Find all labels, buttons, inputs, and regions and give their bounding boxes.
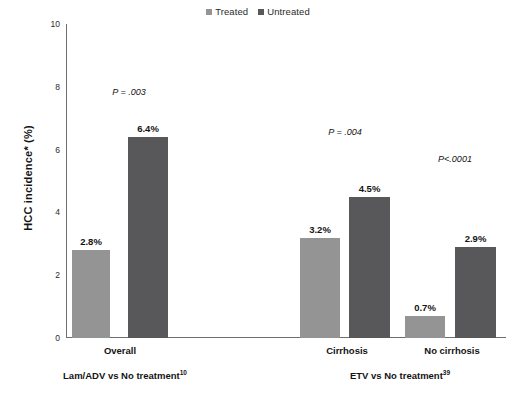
- bar-value-overall-treated: 2.8%: [80, 236, 102, 247]
- y-axis-line: [66, 24, 67, 338]
- pvalue-nocirrhosis: P<.0001: [438, 154, 472, 164]
- chart-legend: Treated Untreated: [0, 6, 516, 17]
- bar-value-nocirrhosis-untreated: 2.9%: [465, 233, 487, 244]
- legend-label-untreated: Untreated: [267, 6, 310, 17]
- panel-label-etv-superscript: 39: [443, 369, 450, 376]
- panel-label-lam-adv: Lam/ADV vs No treatment10: [63, 369, 187, 381]
- panel-label-etv-text: ETV vs No treatment: [350, 370, 443, 381]
- bar-overall-treated: 2.8%: [72, 250, 110, 338]
- pvalue-overall: P = .003: [112, 87, 145, 97]
- legend-entry-untreated: Untreated: [258, 6, 310, 17]
- panel-label-lam-adv-superscript: 10: [180, 369, 187, 376]
- legend-swatch-treated-icon: [206, 9, 212, 15]
- bar-cirrhosis-treated: 3.2%: [300, 238, 340, 339]
- legend-swatch-untreated-icon: [258, 9, 264, 15]
- pvalue-cirrhosis: P = .004: [328, 127, 361, 137]
- legend-entry-treated: Treated: [206, 6, 248, 17]
- bar-cirrhosis-untreated: 4.5%: [349, 197, 390, 338]
- category-label-cirrhosis: Cirrhosis: [326, 345, 368, 356]
- y-tick-0: 0: [36, 333, 60, 343]
- category-label-overall: Overall: [104, 345, 136, 356]
- y-tick-2: 2: [36, 270, 60, 280]
- category-label-no-cirrhosis: No cirrhosis: [424, 345, 479, 356]
- plot-area: 0 2 4 6 8 10 2.8% 6.4% 3.2% 4.5% 0.7% 2.…: [66, 24, 506, 338]
- legend-label-treated: Treated: [215, 6, 248, 17]
- bar-value-cirrhosis-untreated: 4.5%: [359, 183, 381, 194]
- bar-overall-untreated: 6.4%: [128, 137, 168, 338]
- bar-value-nocirrhosis-treated: 0.7%: [414, 302, 436, 313]
- panel-label-lam-adv-text: Lam/ADV vs No treatment: [63, 370, 180, 381]
- y-tick-6: 6: [36, 145, 60, 155]
- panel-label-etv: ETV vs No treatment39: [350, 369, 450, 381]
- y-tick-10: 10: [36, 19, 60, 29]
- y-tick-4: 4: [36, 207, 60, 217]
- y-axis-title: HCC incidence* (%): [22, 88, 34, 268]
- y-tick-8: 8: [36, 82, 60, 92]
- bar-nocirrhosis-untreated: 2.9%: [455, 247, 496, 338]
- bar-value-cirrhosis-treated: 3.2%: [309, 224, 331, 235]
- bar-value-overall-untreated: 6.4%: [137, 123, 159, 134]
- bar-nocirrhosis-treated: 0.7%: [405, 316, 445, 338]
- hcc-incidence-bar-chart: Treated Untreated HCC incidence* (%) 0 2…: [0, 0, 516, 394]
